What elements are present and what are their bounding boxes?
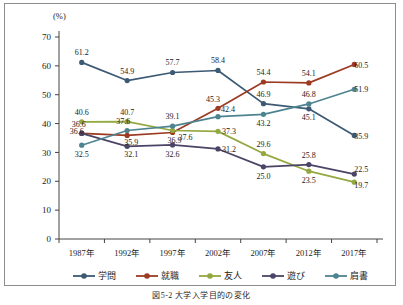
legend-marker-4 xyxy=(333,273,339,279)
x-axis-tick-label: 1997年 xyxy=(160,248,186,258)
chart-frame: (%)0102030405060701987年1992年1997年2002年20… xyxy=(4,3,396,286)
data-point[interactable] xyxy=(170,70,175,75)
legend-marker-0 xyxy=(81,273,87,279)
data-point[interactable] xyxy=(125,128,130,133)
data-point[interactable] xyxy=(261,101,266,106)
legend-marker-3 xyxy=(270,273,276,279)
data-point-label: 46.9 xyxy=(256,90,270,99)
data-point-label: 32.6 xyxy=(166,150,180,159)
legend-label-3[interactable]: 遊び xyxy=(287,270,305,281)
data-point[interactable] xyxy=(215,68,220,73)
y-axis-unit-label: (%) xyxy=(53,11,66,21)
y-axis-tick-label: 20 xyxy=(42,176,52,186)
data-point[interactable] xyxy=(170,124,175,129)
data-point[interactable] xyxy=(261,112,266,117)
data-point-label: 29.6 xyxy=(256,140,270,149)
data-point-label: 35.9 xyxy=(354,132,368,141)
data-point-label: 46.8 xyxy=(302,90,316,99)
figure-caption: 図5-2 大学入学目的の変化 xyxy=(0,289,403,300)
data-point-label: 32.5 xyxy=(75,150,89,159)
y-axis-tick-label: 0 xyxy=(47,234,52,244)
data-point-label: 60.5 xyxy=(354,61,368,70)
line-chart: (%)0102030405060701987年1992年1997年2002年20… xyxy=(5,4,395,285)
data-point-label: 54.9 xyxy=(120,67,134,76)
data-point[interactable] xyxy=(215,129,220,134)
x-axis-tick-label: 2017年 xyxy=(341,248,367,258)
data-point-label: 31.2 xyxy=(222,145,236,154)
data-point[interactable] xyxy=(261,79,266,84)
data-point-label: 37.6 xyxy=(179,133,193,142)
data-point-label: 22.5 xyxy=(354,165,368,174)
legend-label-4[interactable]: 肩書 xyxy=(350,270,368,281)
x-axis-tick-label: 1992年 xyxy=(114,248,140,258)
data-point[interactable] xyxy=(215,146,220,151)
data-point-label: 23.5 xyxy=(302,176,316,185)
data-point-label: 43.2 xyxy=(256,119,270,128)
data-point-label: 51.9 xyxy=(354,85,368,94)
data-point-label: 39.1 xyxy=(166,112,180,121)
legend-marker-1 xyxy=(144,273,150,279)
data-point-label: 54.1 xyxy=(302,69,316,78)
legend-label-2[interactable]: 友人 xyxy=(224,270,242,281)
data-point[interactable] xyxy=(79,60,84,65)
legend-label-1[interactable]: 就職 xyxy=(161,270,179,281)
data-point-label: 19.7 xyxy=(354,181,368,190)
data-point[interactable] xyxy=(215,114,220,119)
data-point-label: 45.1 xyxy=(302,113,316,122)
data-point[interactable] xyxy=(261,164,266,169)
data-point-label: 35.9 xyxy=(124,138,138,147)
data-point-label: 40.7 xyxy=(120,108,134,117)
data-point-label: 32.1 xyxy=(124,150,138,159)
data-point[interactable] xyxy=(306,106,311,111)
data-point[interactable] xyxy=(306,80,311,85)
y-axis-tick-label: 60 xyxy=(42,61,52,71)
data-point[interactable] xyxy=(215,106,220,111)
x-axis-tick-label: 1987年 xyxy=(69,248,95,258)
data-point[interactable] xyxy=(125,78,130,83)
data-point-label: 25.8 xyxy=(302,151,316,160)
data-point[interactable] xyxy=(125,133,130,138)
data-point[interactable] xyxy=(306,162,311,167)
legend-label-0[interactable]: 学問 xyxy=(98,270,116,281)
data-point-label: 40.6 xyxy=(75,108,89,117)
data-point-label: 37.3 xyxy=(222,127,236,136)
x-axis-tick-label: 2002年 xyxy=(205,248,231,258)
data-point-label: 54.4 xyxy=(256,68,270,77)
data-point-label: 57.7 xyxy=(166,58,180,67)
data-point-label: 42.4 xyxy=(221,105,235,114)
data-point-label: 37.6 xyxy=(116,117,130,126)
legend-marker-2 xyxy=(207,273,213,279)
x-axis-tick-label: 2012年 xyxy=(296,248,322,258)
data-point[interactable] xyxy=(306,169,311,174)
y-axis-tick-label: 10 xyxy=(42,205,52,215)
figure-root: (%)0102030405060701987年1992年1997年2002年20… xyxy=(0,0,403,305)
data-point[interactable] xyxy=(261,151,266,156)
x-axis-tick-label: 2007年 xyxy=(250,248,276,258)
y-axis-tick-label: 50 xyxy=(42,90,52,100)
data-point-label: 58.4 xyxy=(211,56,225,65)
y-axis-tick-label: 40 xyxy=(42,119,52,129)
data-point-label: 25.0 xyxy=(256,172,270,181)
y-axis-tick-label: 30 xyxy=(42,148,52,158)
data-point[interactable] xyxy=(306,101,311,106)
data-point[interactable] xyxy=(79,143,84,148)
data-point-label: 61.2 xyxy=(75,48,89,57)
data-point-label: 45.3 xyxy=(206,95,220,104)
data-point-label: 36.6 xyxy=(70,127,84,136)
y-axis-tick-label: 70 xyxy=(42,32,52,42)
